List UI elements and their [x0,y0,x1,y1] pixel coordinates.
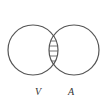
set-v-label: V [35,87,41,97]
set-a-circle [49,25,99,75]
set-a-label: A [68,87,74,97]
venn-diagram [0,0,102,100]
set-v-circle [8,25,58,75]
